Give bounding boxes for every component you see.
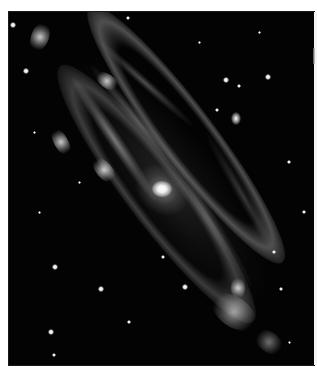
star: [33, 131, 36, 134]
star: [52, 264, 58, 270]
star: [78, 181, 81, 184]
star: [48, 329, 55, 336]
star: [38, 211, 41, 214]
star: [126, 16, 131, 21]
star: [127, 320, 131, 324]
star: [223, 77, 229, 83]
star: [182, 284, 188, 290]
star: [288, 341, 291, 344]
star-field: [9, 12, 314, 365]
star: [302, 210, 306, 214]
right-edge-mark: [313, 48, 315, 64]
star: [265, 74, 270, 79]
right-edge-strip: [314, 12, 317, 365]
star: [272, 250, 276, 254]
star: [98, 286, 103, 291]
star: [10, 22, 17, 29]
star: [52, 353, 56, 357]
star: [279, 287, 284, 292]
star: [258, 31, 261, 34]
galaxy-photo: [9, 12, 314, 365]
star: [198, 41, 201, 44]
star: [161, 255, 166, 260]
star: [23, 68, 28, 73]
star: [215, 108, 219, 112]
star: [287, 160, 291, 164]
star: [237, 84, 242, 89]
